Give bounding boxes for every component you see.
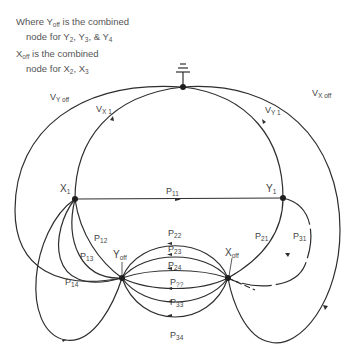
label-p13: P13 — [80, 251, 93, 264]
ground-icon — [176, 64, 190, 87]
edge-v-x1 — [75, 87, 183, 199]
label-p24: P24 — [168, 260, 181, 273]
label-xoff: Xoff — [225, 248, 239, 261]
edge-p11 — [75, 198, 283, 199]
note-xoff-definition: Xoff is the combined node for X2, X3 — [16, 48, 99, 78]
label-p31: P31 — [293, 231, 306, 244]
node-x1 — [72, 196, 78, 202]
label-p12: P12 — [94, 233, 107, 246]
edge-v-y1 — [183, 87, 283, 198]
label-x1: X1 — [60, 184, 70, 197]
label-p23: P23 — [168, 244, 181, 257]
label-v-x1: VX 1 — [96, 104, 112, 117]
label-yoff: Yoff — [113, 250, 127, 263]
arrow-icon — [323, 305, 328, 310]
label-p22: P22 — [168, 228, 181, 241]
node-ground — [180, 84, 186, 90]
node-xoff — [225, 275, 231, 281]
label-p33: P33 — [170, 297, 183, 310]
label-v-xoff: VX off — [312, 88, 331, 101]
label-p32: P?? — [170, 277, 183, 290]
edge-v-xoff — [183, 86, 340, 342]
label-y1: Y1 — [266, 184, 276, 197]
label-v-y1: VY 1 — [265, 105, 281, 118]
arrow-icon — [262, 119, 266, 124]
arrow-icon — [285, 253, 290, 257]
label-p34: P34 — [170, 330, 183, 343]
label-p11: P11 — [166, 186, 179, 199]
edge-p14-outer — [36, 199, 122, 340]
edge-xoff-tail — [228, 278, 255, 290]
label-p14: P14 — [65, 277, 78, 290]
note-yoff-definition: Where Yoff is the combined node for Y2, … — [16, 16, 129, 46]
label-v-yoff: VY off — [50, 92, 69, 105]
label-p21: P21 — [255, 231, 268, 244]
node-y1 — [280, 195, 286, 201]
